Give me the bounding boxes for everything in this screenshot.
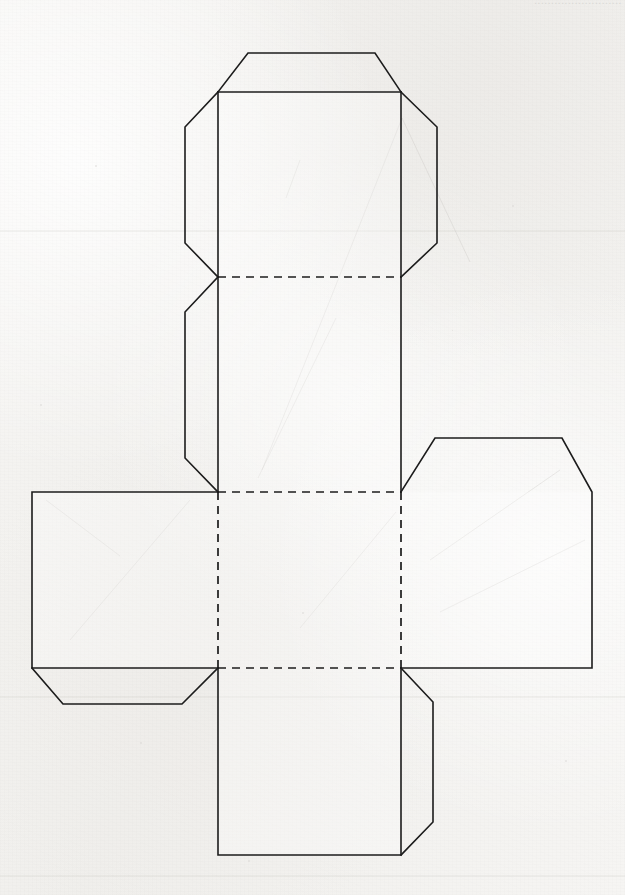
face-upper-middle-fill xyxy=(218,277,401,492)
flap-bottom-right-outline xyxy=(401,668,433,855)
face-right-fill xyxy=(401,492,592,668)
flap-top-right-outline xyxy=(401,92,437,277)
face-top-fill xyxy=(218,92,401,277)
flap-top-left-outline xyxy=(185,92,218,277)
face-fills xyxy=(32,92,592,855)
cube-net-diagram xyxy=(0,0,625,895)
face-center-fill xyxy=(218,492,401,668)
face-left-fill xyxy=(32,492,218,668)
flap-upper-left-outline xyxy=(185,277,218,492)
page-canvas: .......................... xyxy=(0,0,625,895)
flap-left-bottom-outline xyxy=(32,668,218,704)
flap-top-outline xyxy=(218,53,401,92)
face-bottom-fill xyxy=(218,668,401,855)
